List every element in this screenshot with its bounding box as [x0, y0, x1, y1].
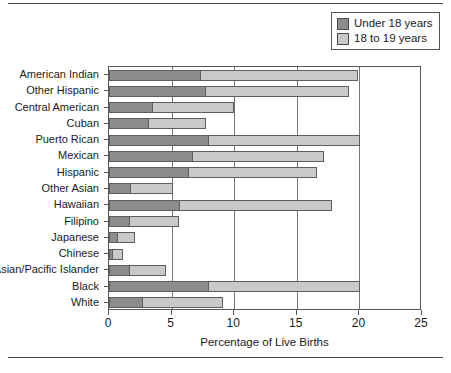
figure-top-rule	[8, 3, 443, 4]
x-axis-tick-label: 15	[289, 316, 302, 330]
bar-segment-18-to-19	[208, 135, 360, 146]
y-axis-label: Central American	[0, 99, 103, 115]
stacked-bar	[109, 216, 179, 227]
bar-segment-under-18	[109, 70, 201, 81]
y-axis-tick	[104, 155, 108, 156]
bar-segment-18-to-19	[129, 265, 166, 276]
y-axis-label: Hispanic	[0, 164, 103, 180]
x-axis-tick-label: 20	[352, 316, 365, 330]
bar-segment-under-18	[109, 151, 193, 162]
stacked-bar	[109, 151, 324, 162]
y-axis-tick	[104, 237, 108, 238]
bar-segment-under-18	[109, 297, 143, 308]
y-axis-tick	[104, 302, 108, 303]
stacked-bar	[109, 281, 360, 292]
bar-segment-under-18	[109, 200, 180, 211]
bar-row	[109, 181, 420, 197]
bar-segment-18-to-19	[112, 249, 123, 260]
legend-label-under-18: Under 18 years	[354, 17, 433, 30]
bar-row	[109, 100, 420, 116]
y-axis-tick	[104, 269, 108, 270]
y-axis-tick	[104, 123, 108, 124]
y-axis-label: Cuban	[0, 115, 103, 131]
legend-item-18-to-19: 18 to 19 years	[337, 31, 433, 46]
bar-segment-under-18	[109, 102, 153, 113]
bar-row	[109, 246, 420, 262]
y-axis-tick	[104, 172, 108, 173]
bar-row	[109, 230, 420, 246]
y-axis-label: Chinese	[0, 245, 103, 261]
bar-row	[109, 197, 420, 213]
stacked-bar	[109, 167, 317, 178]
bar-row	[109, 116, 420, 132]
y-axis-label: Asian/Pacific Islander	[0, 261, 103, 277]
bar-segment-under-18	[109, 86, 206, 97]
y-axis-label: Mexican	[0, 147, 103, 163]
chart-legend: Under 18 years 18 to 19 years	[331, 12, 440, 50]
bar-row	[109, 165, 420, 181]
y-axis-tick	[104, 107, 108, 108]
y-axis-label: Other Asian	[0, 180, 103, 196]
legend-swatch-18-to-19	[337, 33, 349, 45]
y-axis-label: Black	[0, 277, 103, 293]
bar-segment-18-to-19	[148, 118, 207, 129]
bar-segment-18-to-19	[179, 200, 331, 211]
bar-row	[109, 132, 420, 148]
y-axis-label: Filipino	[0, 212, 103, 228]
y-axis-tick	[104, 90, 108, 91]
bar-segment-18-to-19	[188, 167, 317, 178]
stacked-bar	[109, 297, 223, 308]
bar-row	[109, 83, 420, 99]
stacked-bar	[109, 249, 123, 260]
bar-segment-under-18	[109, 216, 130, 227]
stacked-bar	[109, 118, 206, 129]
chart-figure: Under 18 years 18 to 19 years American I…	[0, 0, 451, 373]
bar-segment-18-to-19	[192, 151, 324, 162]
x-axis-tick	[296, 310, 297, 315]
y-axis-tick	[104, 204, 108, 205]
x-axis-tick	[421, 310, 422, 315]
legend-swatch-under-18	[337, 18, 349, 30]
bar-segment-18-to-19	[129, 216, 179, 227]
bar-segment-18-to-19	[117, 232, 136, 243]
bar-segment-18-to-19	[208, 281, 360, 292]
bar-segment-18-to-19	[200, 70, 358, 81]
bar-segment-18-to-19	[205, 86, 349, 97]
bar-row	[109, 67, 420, 83]
y-axis-tick	[104, 286, 108, 287]
bar-row	[109, 213, 420, 229]
bar-segment-18-to-19	[130, 183, 172, 194]
bar-row	[109, 262, 420, 278]
x-axis-tick-label: 0	[105, 316, 112, 330]
stacked-bar	[109, 265, 166, 276]
x-axis-title: Percentage of Live Births	[108, 336, 421, 348]
bar-segment-under-18	[109, 183, 131, 194]
x-axis-tick	[171, 310, 172, 315]
bar-segment-under-18	[109, 281, 209, 292]
x-axis-tick	[233, 310, 234, 315]
y-axis-label: Other Hispanic	[0, 82, 103, 98]
bar-segment-under-18	[109, 265, 130, 276]
x-axis-tick	[108, 310, 109, 315]
bar-segment-under-18	[109, 118, 149, 129]
x-axis-tick-labels: 0510152025	[108, 316, 421, 332]
y-axis-label: White	[0, 294, 103, 310]
stacked-bar	[109, 135, 360, 146]
bar-row	[109, 148, 420, 164]
bar-segment-under-18	[109, 167, 189, 178]
y-axis-tick	[104, 221, 108, 222]
y-axis-tick	[104, 188, 108, 189]
stacked-bar	[109, 183, 173, 194]
y-axis-tick	[104, 253, 108, 254]
bar-row	[109, 278, 420, 294]
x-axis-tick-label: 5	[167, 316, 174, 330]
y-axis-labels: American IndianOther HispanicCentral Ame…	[0, 66, 103, 310]
y-axis-label: American Indian	[0, 66, 103, 82]
bar-segment-18-to-19	[142, 297, 223, 308]
stacked-bar	[109, 232, 135, 243]
bar-segment-under-18	[109, 135, 209, 146]
bar-rows	[109, 67, 420, 309]
bar-row	[109, 295, 420, 311]
stacked-bar	[109, 102, 234, 113]
y-axis-tick	[104, 74, 108, 75]
